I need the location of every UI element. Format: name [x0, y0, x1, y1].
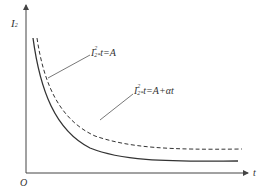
- leader-line-2: [100, 94, 133, 120]
- curve-solid: [33, 38, 238, 161]
- diagram-canvas: [0, 0, 267, 193]
- leader-line-1: [48, 55, 90, 78]
- origin-label: O: [20, 178, 27, 188]
- y-axis-label: I2: [11, 18, 18, 29]
- annotation-dashed-curve: I22*t=A+αt: [134, 86, 174, 96]
- annotation-solid-curve: I22*t=A: [91, 48, 116, 58]
- x-axis-label: t: [253, 168, 256, 178]
